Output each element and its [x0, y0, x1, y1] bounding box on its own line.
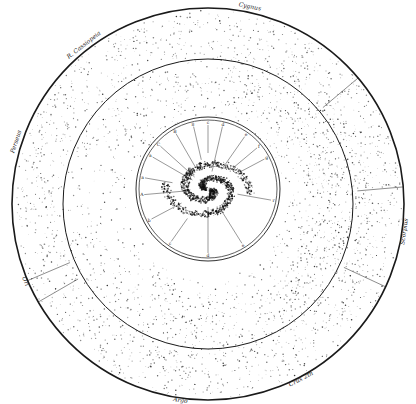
star-dot	[159, 278, 160, 279]
star-dot	[276, 294, 277, 295]
star-dot	[93, 320, 94, 321]
star-dot	[239, 71, 240, 72]
star-dot	[343, 302, 344, 303]
star-dot	[200, 341, 201, 342]
star-dot	[160, 279, 161, 280]
star-dot	[359, 203, 360, 204]
star-dot	[213, 41, 214, 42]
star-dot	[26, 195, 27, 196]
star-dot	[367, 157, 369, 159]
star-dot	[278, 246, 279, 247]
star-dot	[233, 97, 235, 99]
star-dot	[173, 289, 174, 290]
nebula-dot	[228, 181, 229, 182]
star-dot	[309, 43, 310, 44]
star-dot	[195, 370, 197, 372]
star-dot	[326, 133, 327, 134]
star-dot	[65, 239, 66, 240]
nebula-dot	[212, 209, 214, 211]
star-dot	[313, 54, 314, 55]
star-dot	[351, 208, 352, 209]
star-dot	[291, 290, 293, 292]
star-dot	[172, 46, 173, 47]
star-dot	[246, 368, 247, 369]
star-dot	[325, 153, 326, 154]
star-dot	[283, 314, 284, 315]
star-dot	[175, 91, 176, 92]
nebula-dot	[189, 182, 190, 183]
star-dot	[48, 98, 49, 99]
nebula-dot	[183, 210, 184, 211]
star-dot	[97, 88, 98, 89]
star-dot	[157, 375, 158, 376]
star-dot	[51, 115, 52, 116]
star-dot	[208, 308, 209, 309]
star-dot	[100, 274, 101, 275]
star-dot	[312, 228, 313, 229]
star-dot	[95, 334, 96, 335]
star-dot	[106, 141, 107, 142]
star-dot	[247, 386, 248, 387]
star-dot	[335, 192, 336, 193]
star-dot	[146, 40, 147, 41]
star-dot	[377, 274, 379, 276]
star-dot	[270, 370, 271, 371]
star-dot	[94, 171, 95, 172]
star-dot	[361, 89, 362, 90]
star-dot	[296, 295, 297, 296]
star-dot	[25, 263, 26, 264]
star-dot	[373, 111, 374, 112]
star-dot	[335, 304, 336, 305]
star-dot	[115, 301, 116, 302]
nebula-dot	[164, 196, 165, 197]
star-dot	[352, 263, 353, 264]
star-dot	[105, 246, 106, 247]
star-dot	[365, 122, 366, 123]
milky-way-diagram: aB8cdefgCAbcdera CygnusR. CassiopeiaPers…	[0, 0, 416, 404]
star-dot	[378, 296, 379, 297]
star-dot	[164, 313, 165, 314]
star-dot	[81, 56, 82, 57]
star-dot	[211, 92, 212, 93]
star-dot	[176, 300, 177, 301]
star-dot	[144, 22, 145, 23]
star-dot	[140, 346, 142, 348]
star-dot	[115, 115, 116, 116]
star-dot	[311, 288, 312, 289]
star-dot	[119, 365, 120, 366]
star-dot	[210, 381, 211, 382]
star-dot	[340, 238, 341, 239]
star-dot	[300, 108, 302, 110]
star-dot	[70, 210, 71, 211]
star-dot	[38, 298, 39, 299]
star-dot	[323, 257, 325, 259]
star-dot	[386, 138, 387, 139]
star-dot	[358, 227, 359, 228]
nebula-dot	[185, 180, 186, 181]
star-dot	[89, 316, 90, 317]
star-dot	[295, 277, 296, 278]
star-dot	[142, 358, 143, 359]
nebula-dot	[223, 168, 224, 169]
star-dot	[301, 312, 302, 313]
star-dot	[80, 269, 81, 270]
star-dot	[242, 342, 243, 343]
star-dot	[274, 251, 275, 252]
nebula-dot	[173, 196, 174, 197]
nebula-dot	[227, 184, 229, 186]
star-dot	[236, 293, 237, 294]
star-dot	[103, 124, 104, 125]
star-dot	[360, 179, 361, 180]
star-dot	[365, 136, 366, 137]
star-dot	[380, 134, 381, 135]
star-dot	[103, 269, 104, 270]
nebula-dot	[202, 215, 203, 216]
star-dot	[234, 370, 235, 371]
star-dot	[298, 130, 300, 132]
star-dot	[253, 338, 254, 339]
star-dot	[307, 356, 308, 357]
star-dot	[398, 225, 399, 226]
star-dot	[308, 253, 309, 254]
star-dot	[160, 305, 161, 306]
star-dot	[125, 271, 126, 272]
